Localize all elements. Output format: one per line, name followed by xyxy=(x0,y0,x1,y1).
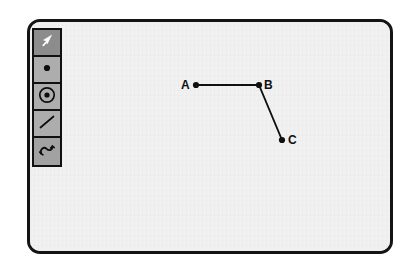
circle-icon xyxy=(37,85,57,109)
tool-button-point[interactable] xyxy=(34,57,60,84)
tool-palette xyxy=(32,28,62,167)
point-b[interactable] xyxy=(256,82,262,88)
point-c[interactable] xyxy=(279,137,285,143)
curve-icon xyxy=(37,141,57,163)
tool-button-segment[interactable] xyxy=(34,111,60,138)
point-label-a: A xyxy=(181,79,190,91)
tool-button-circle[interactable] xyxy=(34,84,60,111)
point-icon xyxy=(39,60,55,80)
geometry-sketch-window: A B C xyxy=(27,19,393,254)
point-label-c: C xyxy=(288,134,297,146)
arrow-cursor-icon xyxy=(39,33,55,53)
drawing-canvas[interactable]: A B C xyxy=(30,22,390,251)
geometry-layer xyxy=(30,22,390,251)
tool-button-curve[interactable] xyxy=(34,138,60,165)
line-icon xyxy=(37,113,57,135)
tool-button-select[interactable] xyxy=(34,30,60,57)
point-label-b: B xyxy=(264,79,273,91)
screenshot-root: A B C xyxy=(0,0,414,272)
point-a[interactable] xyxy=(193,82,199,88)
segment-bc[interactable] xyxy=(259,85,282,140)
